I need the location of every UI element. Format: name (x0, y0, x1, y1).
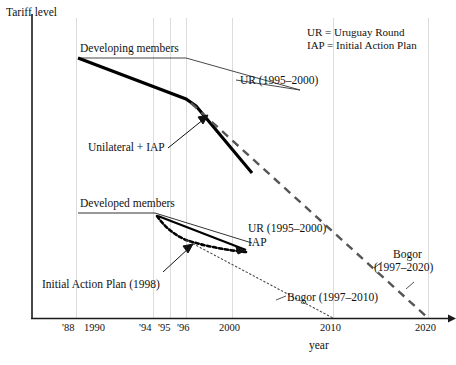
leader-bogor-2010 (276, 296, 286, 300)
legend-iap-definition: IAP = Initial Action Plan (307, 39, 417, 51)
leader-bogor-2020b (406, 282, 414, 289)
label-initial-action-plan: Initial Action Plan (1998) (42, 278, 160, 291)
x-tick-2020: 2020 (415, 322, 436, 334)
x-tick-2010: 2010 (320, 322, 341, 334)
x-tick-95: '95 (158, 322, 170, 334)
annotation-arrow-unilateral (168, 115, 208, 148)
label-bogor-2020-line1: Bogor (393, 248, 422, 261)
label-developed-members: Developed members (80, 197, 175, 210)
x-tick-88: '88 (62, 322, 74, 334)
x-axis-title: year (309, 339, 329, 352)
label-bogor-2010: Bogor (1997–2010) (287, 291, 378, 304)
series-bogor-2020 (191, 103, 428, 318)
series-developed-members (78, 213, 252, 243)
label-ur-developing: UR (1995–2000) (240, 74, 318, 87)
x-tick-2000: 2000 (219, 322, 240, 334)
series-developing-members (78, 58, 252, 173)
series-bogor-2010 (186, 240, 333, 318)
label-ur-developed: UR (1995–2000) (248, 222, 326, 235)
chart-plot-area (0, 0, 456, 365)
y-axis-title: Tariff level (6, 6, 57, 19)
x-axis-arrowhead (448, 315, 456, 323)
x-tick-96: '96 (177, 322, 189, 334)
x-tick-1990: 1990 (84, 322, 105, 334)
chart-figure: Tariff level year UR = Uruguay Round IAP… (0, 0, 456, 365)
legend-ur-definition: UR = Uruguay Round (307, 26, 405, 38)
annotation-arrow-iap (163, 244, 193, 272)
label-bogor-2020-line2: (1997–2020) (374, 261, 433, 274)
label-developing-members: Developing members (80, 42, 179, 55)
x-tick-94: '94 (139, 322, 151, 334)
label-iap-developed: IAP (248, 236, 267, 249)
label-unilateral-iap: Unilateral + IAP (88, 141, 165, 154)
